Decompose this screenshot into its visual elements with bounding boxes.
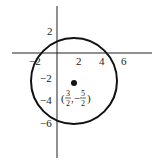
center-label: ( 3 2 ,− 5 2 )	[61, 89, 91, 108]
x-tick-neg2: −2	[29, 55, 41, 67]
svg-text:2: 2	[66, 99, 70, 108]
svg-text:): )	[87, 92, 91, 105]
svg-text:5: 5	[81, 89, 85, 98]
x-tick-2: 2	[76, 55, 82, 67]
svg-text:,−: ,−	[71, 92, 80, 104]
y-tick-2: 2	[47, 25, 53, 37]
y-tick-neg2: −2	[40, 72, 52, 84]
x-tick-6: 6	[121, 55, 127, 67]
coordinate-plane: −2 2 4 6 2 −2 −4 −6 ( 3 2 ,− 5 2 )	[0, 0, 160, 163]
svg-text:2: 2	[81, 99, 85, 108]
svg-text:3: 3	[66, 89, 70, 98]
x-tick-4: 4	[99, 55, 105, 67]
center-point	[71, 80, 77, 86]
y-tick-neg4: −4	[40, 94, 52, 106]
y-tick-neg6: −6	[40, 117, 52, 129]
svg-text:(: (	[61, 92, 65, 105]
